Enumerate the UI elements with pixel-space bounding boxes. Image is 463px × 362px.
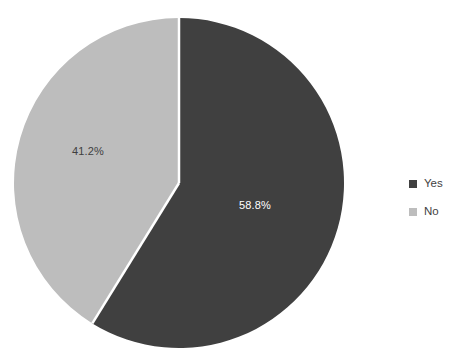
legend-swatch-icon — [409, 208, 417, 216]
slice-label-yes: 58.8% — [239, 199, 271, 211]
pie-chart-canvas: 58.8% 41.2% — [0, 0, 463, 362]
legend-label-yes: Yes — [424, 178, 443, 190]
pie-chart-figure: 58.8% 41.2% Yes No — [0, 0, 463, 362]
slice-label-no: 41.2% — [72, 145, 104, 157]
legend-label-no: No — [424, 206, 439, 218]
legend-item-no[interactable]: No — [409, 198, 463, 226]
legend-swatch-icon — [409, 180, 417, 188]
legend-item-yes[interactable]: Yes — [409, 170, 463, 198]
chart-legend: Yes No — [409, 170, 463, 226]
